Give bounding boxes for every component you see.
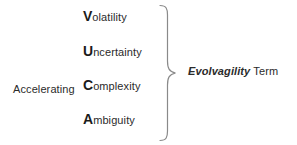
vuca-rest-volatility: olatility xyxy=(92,11,127,23)
term-word-term: Term xyxy=(253,65,278,77)
brace-svg xyxy=(158,4,186,142)
vuca-item-volatility: Volatility xyxy=(83,10,127,24)
vuca-list: Volatility Uncertainty Complexity Ambigu… xyxy=(83,0,163,145)
vuca-item-uncertainty: Uncertainty xyxy=(83,45,142,59)
right-curly-brace-icon xyxy=(158,4,186,142)
vuca-initial-a: A xyxy=(83,111,93,127)
modifier-label-accelerating: Accelerating xyxy=(13,83,75,96)
vuca-rest-complexity: omplexity xyxy=(93,80,140,92)
vuca-initial-v: V xyxy=(83,8,92,24)
brace-path xyxy=(160,6,176,141)
term-name-evolvagility: Evolvagility xyxy=(188,65,250,77)
vuca-rest-ambiguity: mbiguity xyxy=(93,114,135,126)
vuca-initial-c: C xyxy=(83,77,93,93)
vuca-item-ambiguity: Ambiguity xyxy=(83,113,135,127)
evolvagility-term-label: Evolvagility Term xyxy=(188,65,278,78)
vuca-initial-u: U xyxy=(83,43,93,59)
vuca-rest-uncertainty: ncertainty xyxy=(93,46,142,58)
vuca-evolvagility-diagram: Accelerating Volatility Uncertainty Comp… xyxy=(0,0,297,145)
vuca-item-complexity: Complexity xyxy=(83,79,141,93)
